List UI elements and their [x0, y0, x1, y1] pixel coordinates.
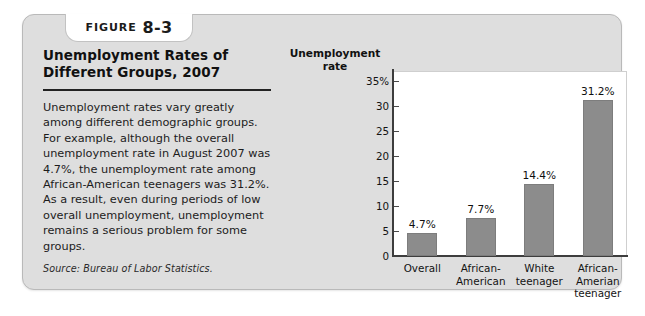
y-tick-label: 35%	[349, 75, 389, 87]
y-tick-mark	[394, 106, 399, 107]
x-category-label: African-Amerianteenager	[566, 262, 630, 300]
bar-value-label: 31.2%	[568, 85, 628, 97]
figure-source-note: Source: Bureau of Labor Statistics.	[43, 263, 271, 274]
figure-panel: Figure 8-3 Unemployment Rates of Differe…	[22, 14, 622, 290]
figure-body-text: Unemployment rates vary greatly among di…	[43, 100, 271, 254]
title-divider	[43, 89, 271, 91]
y-tick-mark	[394, 206, 399, 207]
x-category-label: Overall	[390, 262, 454, 275]
x-category-label-line: teenager	[566, 287, 630, 300]
x-category-label-line: African-	[566, 262, 630, 275]
y-tick-label: 25	[349, 125, 389, 137]
x-category-label-line: Amerian	[566, 275, 630, 288]
figure-title-line-1: Unemployment Rates of	[43, 47, 271, 64]
bar	[407, 233, 437, 257]
x-category-label: Whiteteenager	[507, 262, 571, 287]
x-category-label-line: American	[449, 275, 513, 288]
x-category-label: African-American	[449, 262, 513, 287]
figure-number: 8-3	[143, 18, 173, 37]
x-category-label-line: Overall	[390, 262, 454, 275]
y-tick-label: 10	[349, 200, 389, 212]
y-tick-mark	[394, 181, 399, 182]
y-tick-label: 30	[349, 100, 389, 112]
y-tick-mark	[394, 81, 399, 82]
x-category-label-line: White	[507, 262, 571, 275]
bar	[466, 218, 496, 257]
y-axis-tick-labels: 05101520253035%	[343, 37, 389, 287]
bar	[583, 100, 613, 256]
y-tick-label: 20	[349, 150, 389, 162]
figure-text-column: Unemployment Rates of Different Groups, …	[43, 47, 271, 274]
y-tick-mark	[394, 231, 399, 232]
bar-value-label: 7.7%	[451, 203, 511, 215]
figure-label: Figure	[86, 21, 137, 34]
y-tick-mark	[394, 156, 399, 157]
y-tick-label: 0	[349, 250, 389, 262]
figure-title-line-2: Different Groups, 2007	[43, 64, 271, 81]
y-tick-label: 15	[349, 175, 389, 187]
bar-value-label: 14.4%	[509, 169, 569, 181]
figure-number-tab: Figure 8-3	[65, 14, 193, 42]
x-category-label-line: teenager	[507, 275, 571, 288]
bar-value-label: 4.7%	[392, 218, 452, 230]
figure-title: Unemployment Rates of Different Groups, …	[43, 47, 271, 81]
bar-chart: Unemployment rate 05101520253035% 4.7%7.…	[271, 37, 619, 287]
bar	[524, 184, 554, 256]
y-tick-label: 5	[349, 225, 389, 237]
y-tick-mark	[394, 131, 399, 132]
x-category-label-line: African-	[449, 262, 513, 275]
